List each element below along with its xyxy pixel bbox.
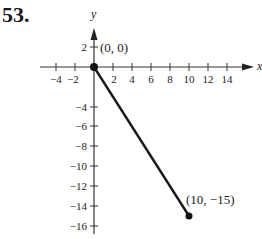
y-tick-label: −16: [70, 220, 88, 232]
endpoint-label: (10, −15): [186, 192, 235, 207]
line-segment: [90, 63, 193, 220]
y-tick-label: −14: [70, 200, 88, 212]
y-axis: 2 −4 −6 −8 −10 −12 −14 −16 y: [70, 7, 98, 234]
origin-point-marker: [90, 63, 98, 71]
x-tick-label: 4: [129, 73, 135, 85]
x-axis: −4 −2 2 4 6 8 10 12 14 x: [40, 59, 262, 85]
endpoint-marker: [186, 213, 193, 220]
y-tick-label: −12: [70, 180, 87, 192]
x-tick-label: 12: [203, 73, 214, 85]
x-tick-label: −4: [50, 73, 62, 85]
x-tick-label: 8: [167, 73, 173, 85]
y-axis-label: y: [90, 7, 97, 21]
x-tick-label: 14: [222, 73, 234, 85]
y-axis-arrow-icon: [91, 28, 98, 40]
x-tick-label: 2: [111, 73, 117, 85]
y-tick-label: −8: [75, 140, 87, 152]
y-tick-label: 2: [82, 41, 88, 53]
x-axis-label: x: [256, 59, 262, 73]
y-tick-label: −4: [75, 101, 87, 113]
origin-point-label: (0, 0): [100, 40, 128, 55]
coordinate-plane: −4 −2 2 4 6 8 10 12 14 x 2 −4 −6 −8 −10 …: [0, 0, 262, 239]
y-tick-label: −10: [70, 160, 88, 172]
x-tick-label: −2: [67, 73, 79, 85]
x-axis-arrow-icon: [242, 64, 254, 71]
x-tick-label: 6: [148, 73, 154, 85]
x-tick-label: 10: [184, 73, 196, 85]
y-tick-label: −6: [75, 120, 87, 132]
